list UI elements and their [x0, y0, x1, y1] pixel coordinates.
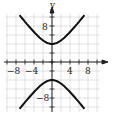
x-tick-8: 8	[85, 66, 91, 76]
hyperbola-chart: y −8 −4 4 8 8 −8	[0, 0, 113, 119]
axes	[4, 7, 108, 112]
grid	[6, 14, 100, 112]
y-axis-label: y	[49, 0, 56, 10]
x-tick-neg4: −4	[25, 66, 39, 76]
x-tick-neg8: −8	[7, 66, 21, 76]
y-tick-8: 8	[42, 22, 48, 32]
x-tick-4: 4	[67, 66, 73, 76]
y-tick-neg8: −8	[36, 93, 50, 103]
